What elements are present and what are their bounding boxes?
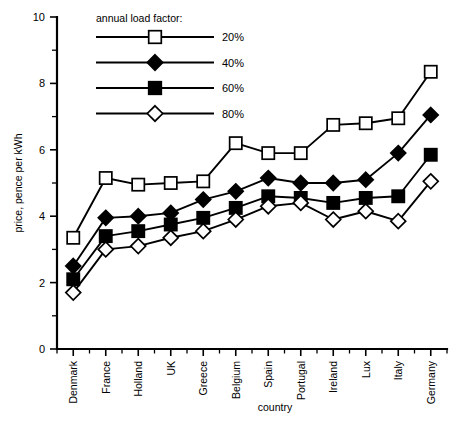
marker-open-square [295, 147, 307, 159]
x-tick-label: Spain [262, 361, 274, 388]
x-tick-label: Lux [360, 360, 372, 378]
legend-label: 40% [222, 57, 244, 69]
legend-label: 60% [222, 82, 244, 94]
legend-item-60pct[interactable]: 60% [96, 82, 244, 95]
x-tick-label: Italy [392, 360, 404, 380]
x-axis-title: country [258, 401, 293, 413]
marker-open-square [327, 119, 339, 131]
y-tick-label: 0 [39, 343, 45, 355]
legend: 20%40%60%80% [96, 31, 244, 121]
axis-lines [57, 17, 447, 349]
marker-filled-diamond [98, 210, 113, 225]
marker-open-square [132, 179, 144, 191]
y-tick-label: 6 [39, 144, 45, 156]
y-tick-label: 8 [39, 77, 45, 89]
marker-filled-square [327, 197, 339, 209]
line-chart: 0246810price, pence per kWhDenmarkFrance… [0, 0, 462, 428]
marker-filled-square [197, 212, 209, 224]
y-tick-label: 4 [39, 210, 45, 222]
marker-filled-square [360, 192, 372, 204]
series-80pct [66, 174, 438, 300]
marker-filled-diamond [131, 209, 146, 224]
marker-open-diamond [196, 224, 211, 239]
x-tick-label: Greece [197, 361, 209, 396]
x-tick-label: France [100, 361, 112, 394]
marker-open-square [262, 147, 274, 159]
marker-filled-square [132, 225, 144, 237]
marker-filled-square [67, 273, 79, 285]
x-tick-label: Ireland [327, 361, 339, 393]
marker-open-square [165, 177, 177, 189]
marker-open-square [360, 117, 372, 129]
marker-filled-diamond [228, 184, 243, 199]
series-line [73, 115, 431, 266]
marker-filled-diamond [326, 176, 341, 191]
chart-container: 0246810price, pence per kWhDenmarkFrance… [0, 0, 462, 428]
marker-open-diamond [326, 212, 341, 227]
marker-open-diamond [147, 106, 162, 121]
legend-label: 20% [222, 31, 244, 43]
marker-filled-diamond [196, 192, 211, 207]
y-tick-label: 10 [33, 11, 45, 23]
marker-filled-diamond [147, 55, 162, 70]
marker-filled-square [165, 218, 177, 230]
y-tick-label: 2 [39, 277, 45, 289]
legend-label: 80% [222, 108, 244, 120]
legend-title: annual load factor: [96, 12, 182, 24]
marker-open-square [149, 31, 162, 44]
x-tick-label: Germany [425, 360, 437, 404]
legend-item-40pct[interactable]: 40% [96, 55, 244, 70]
x-tick-label: Denmark [67, 360, 79, 403]
marker-open-diamond [358, 204, 373, 219]
legend-item-80pct[interactable]: 80% [96, 106, 244, 121]
legend-item-20pct[interactable]: 20% [96, 31, 244, 44]
marker-open-square [230, 137, 242, 149]
marker-filled-square [425, 149, 437, 161]
marker-open-diamond [163, 230, 178, 245]
y-axis-title: price, pence per kWh [12, 133, 24, 232]
x-tick-label: Portugal [295, 361, 307, 400]
marker-open-square [425, 66, 437, 78]
marker-open-square [67, 232, 79, 244]
axes [57, 17, 447, 349]
x-tick-label: Holland [132, 361, 144, 397]
marker-open-square [392, 112, 404, 124]
marker-open-diamond [66, 285, 81, 300]
marker-open-square [197, 175, 209, 187]
x-tick-label: UK [165, 361, 177, 376]
x-tick-label: Belgium [230, 361, 242, 399]
marker-filled-square [100, 230, 112, 242]
marker-open-diamond [131, 239, 146, 254]
marker-filled-square [392, 190, 404, 202]
marker-open-square [100, 172, 112, 184]
marker-filled-square [149, 82, 162, 95]
marker-filled-diamond [293, 176, 308, 191]
marker-filled-diamond [261, 171, 276, 186]
